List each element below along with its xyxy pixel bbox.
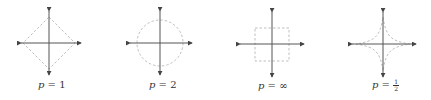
p-value: ∞ xyxy=(279,80,287,91)
equals-sign: = xyxy=(268,80,276,91)
figure-pinf xyxy=(240,12,304,77)
p-value: 2 xyxy=(170,79,176,90)
label-p2: p = 2 xyxy=(149,79,177,90)
p-value: 1 xyxy=(59,79,65,90)
p-symbol: p xyxy=(38,79,44,90)
fraction-denominator: 2 xyxy=(393,86,399,92)
p-symbol: p xyxy=(149,79,155,90)
equals-sign: = xyxy=(159,79,167,90)
label-p1: p = 1 xyxy=(38,79,66,90)
p-symbol: p xyxy=(372,79,378,90)
label-pinf: p = ∞ xyxy=(258,80,288,91)
equals-sign: = xyxy=(48,79,56,90)
fraction-one-half: 1 2 xyxy=(393,79,399,92)
equals-sign: = xyxy=(382,79,390,90)
label-phalf: p = 1 2 xyxy=(372,79,399,92)
figure-p1 xyxy=(21,11,81,75)
figure-p2 xyxy=(130,11,192,75)
p-symbol: p xyxy=(258,80,264,91)
figure-phalf xyxy=(352,12,416,77)
